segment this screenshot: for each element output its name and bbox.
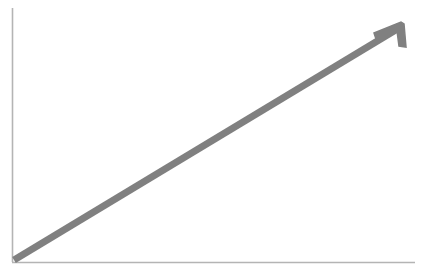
growth-arrow-figure: 5 [0,0,421,277]
chart-canvas [0,0,421,277]
